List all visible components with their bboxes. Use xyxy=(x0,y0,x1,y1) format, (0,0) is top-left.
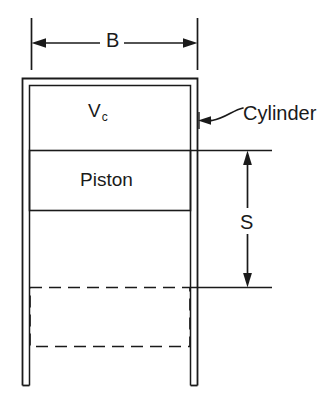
cylinder-leader-arrowhead-icon xyxy=(198,116,211,125)
stroke-label: S xyxy=(240,212,253,232)
clearance-volume-subscript: c xyxy=(102,110,108,124)
clearance-volume-label: Vc xyxy=(88,101,107,120)
engine-cylinder-diagram: B Vc Piston S Cylinder xyxy=(0,0,330,411)
clearance-volume-symbol: V xyxy=(88,100,101,121)
bore-label: B xyxy=(106,30,119,50)
cylinder-inner-wall xyxy=(30,86,191,386)
bore-arrowhead-left-icon xyxy=(32,38,47,48)
bore-arrowhead-right-icon xyxy=(183,38,198,48)
cylinder-outer-wall xyxy=(23,79,198,386)
cylinder-wall-group xyxy=(23,79,198,386)
piston-label: Piston xyxy=(80,170,133,189)
stroke-dimension-group xyxy=(190,151,272,288)
cylinder-leader-group xyxy=(198,108,243,129)
stroke-arrowhead-top-icon xyxy=(243,151,252,166)
stroke-arrowhead-bottom-icon xyxy=(243,273,252,288)
cylinder-label: Cylinder xyxy=(243,103,316,123)
piston-bdc-dashed-rectangle xyxy=(30,288,190,347)
cylinder-leader-curve xyxy=(212,108,243,121)
diagram-canvas xyxy=(0,0,330,411)
